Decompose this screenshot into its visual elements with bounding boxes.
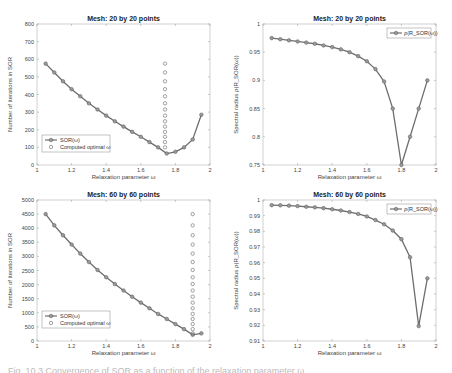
chart-svg: Mesh: 20 by 20 points11.21.41.61.820.750… (226, 0, 452, 178)
data-point (174, 150, 178, 154)
x-tick-label: 2 (208, 167, 211, 173)
y-tick-label: 400 (25, 92, 34, 98)
y-tick-label: 300 (25, 109, 34, 115)
y-axis-label: Number of iterations in SOR (7, 56, 13, 132)
data-point (104, 275, 108, 279)
data-point (270, 203, 274, 207)
data-point (96, 268, 100, 272)
data-point (408, 255, 412, 259)
data-point (382, 222, 386, 226)
y-tick-label: 0.96 (249, 260, 260, 266)
y-axis-label: Number of iterations in SOR (7, 232, 13, 308)
data-point (174, 322, 178, 326)
data-point (113, 119, 117, 123)
x-tick-label: 2 (434, 343, 437, 349)
y-tick-label: 1500 (22, 296, 34, 302)
x-tick-label: 1.4 (328, 167, 336, 173)
x-tick-label: 1.8 (398, 343, 406, 349)
chart-title: Mesh: 60 by 60 points (313, 191, 386, 199)
data-point (200, 332, 204, 336)
y-tick-label: 2000 (22, 282, 34, 288)
data-point (96, 108, 100, 112)
y-tick-label: 4500 (22, 211, 34, 217)
y-tick-label: 0 (31, 338, 34, 344)
data-point (374, 218, 378, 222)
y-tick-label: 1000 (22, 310, 34, 316)
data-point (391, 229, 395, 233)
data-point (122, 125, 126, 129)
data-point (87, 260, 91, 264)
y-tick-label: 0.97 (249, 244, 260, 250)
data-point (44, 62, 48, 66)
data-point (417, 324, 421, 328)
y-tick-label: 0.91 (249, 338, 260, 344)
x-axis-label: Relaxation parameter ω (318, 350, 382, 356)
y-tick-label: 0.92 (249, 322, 260, 328)
data-point (426, 79, 430, 83)
data-point (44, 212, 48, 216)
y-tick-label: 200 (25, 127, 34, 133)
data-point (104, 114, 108, 118)
data-point (130, 130, 134, 134)
data-point (348, 50, 352, 54)
chart-iterations-60x60: Mesh: 60 by 60 points11.21.41.61.8205001… (0, 176, 226, 354)
plot-area (263, 200, 436, 341)
y-tick-label: 600 (25, 56, 34, 62)
chart-title: Mesh: 60 by 60 points (87, 191, 160, 199)
x-tick-label: 1 (35, 343, 38, 349)
data-point (287, 39, 291, 43)
data-point (270, 36, 274, 40)
y-tick-label: 0.8 (252, 134, 260, 140)
legend: ρ(R_SOR(ω)) (387, 204, 438, 214)
chart-spectral-radius-20x20: Mesh: 20 by 20 points11.21.41.61.820.750… (226, 0, 452, 178)
y-tick-label: 0 (31, 162, 34, 168)
y-tick-label: 0.85 (249, 106, 260, 112)
data-point (156, 146, 160, 150)
y-tick-label: 1 (257, 21, 260, 27)
y-tick-label: 1 (257, 197, 260, 203)
x-tick-label: 1.6 (137, 343, 145, 349)
data-point (182, 327, 186, 331)
y-tick-label: 0.95 (249, 275, 260, 281)
y-tick-label: 0.75 (249, 162, 260, 168)
data-point (322, 44, 326, 48)
y-tick-label: 100 (25, 144, 34, 150)
y-tick-label: 3000 (22, 253, 34, 259)
data-point (113, 282, 117, 286)
x-tick-label: 1.2 (294, 343, 302, 349)
data-point (417, 107, 421, 111)
y-axis-label: Spectral radius ρ(R_SOR(ω)) (233, 231, 239, 309)
data-point (148, 140, 152, 144)
data-point (70, 87, 74, 91)
y-tick-label: 4000 (22, 225, 34, 231)
data-point (61, 79, 65, 83)
figure-caption: Fig. 10.3 Convergence of SOR as a functi… (8, 366, 304, 373)
chart-svg: Mesh: 20 by 20 points11.21.41.61.8201002… (0, 0, 226, 178)
y-tick-label: 0.99 (249, 213, 260, 219)
x-tick-label: 2 (208, 343, 211, 349)
data-point (287, 204, 291, 208)
data-point (348, 210, 352, 214)
y-tick-label: 0.93 (249, 307, 260, 313)
legend-label: ρ(R_SOR(ω)) (404, 30, 438, 36)
y-tick-label: 0.95 (249, 49, 260, 55)
data-point (365, 215, 369, 219)
data-point (313, 42, 317, 46)
y-tick-label: 0.94 (249, 291, 260, 297)
data-point (87, 102, 91, 106)
x-tick-label: 1 (35, 167, 38, 173)
legend-label: Computed optimal ω (60, 144, 111, 150)
chart-iterations-20x20: Mesh: 20 by 20 points11.21.41.61.8201002… (0, 0, 226, 178)
data-point (61, 233, 65, 237)
data-point (139, 135, 143, 139)
data-point (191, 138, 195, 142)
data-point (279, 204, 283, 208)
data-point (400, 237, 404, 241)
data-point (139, 301, 143, 305)
x-tick-label: 1.6 (137, 167, 145, 173)
chart-svg: Mesh: 60 by 60 points11.21.41.61.820.910… (226, 176, 452, 354)
data-point (130, 295, 134, 299)
x-tick-label: 1.8 (172, 167, 180, 173)
legend: SOR(ω)Computed optimal ω (42, 311, 111, 328)
plot-area (263, 24, 436, 165)
